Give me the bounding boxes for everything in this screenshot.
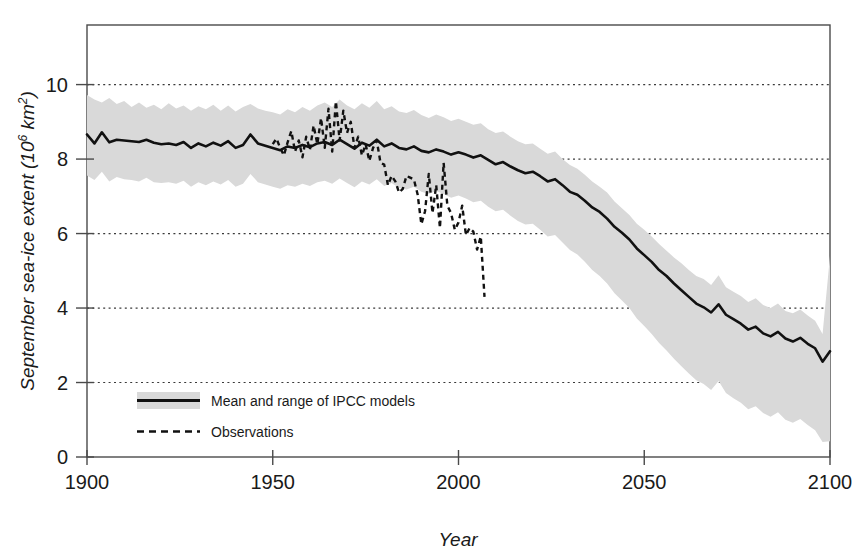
y-tick-label-8: 8 [57, 148, 68, 170]
x-tick-label-1950: 1950 [251, 471, 296, 493]
chart-background [0, 0, 856, 555]
x-axis-title: Year [438, 529, 478, 550]
y-tick-label-6: 6 [57, 223, 68, 245]
y-axis-title-main: September sea-ice extent (10 [17, 141, 38, 391]
x-tick-label-2050: 2050 [622, 471, 667, 493]
legend-label-observations: Observations [211, 424, 293, 440]
y-tick-label-10: 10 [46, 74, 68, 96]
x-tick-label-2000: 2000 [436, 471, 481, 493]
y-axis-title-tail: km [17, 104, 38, 135]
y-tick-label-0: 0 [57, 446, 68, 468]
figure-container: 19001950200020502100 0246810 Year Septem… [0, 0, 856, 555]
y-axis-title-end: ) [17, 91, 38, 99]
y-tick-label-4: 4 [57, 297, 68, 319]
y-tick-label-2: 2 [57, 372, 68, 394]
legend-label-models: Mean and range of IPCC models [211, 393, 415, 409]
x-tick-label-2100: 2100 [808, 471, 853, 493]
x-tick-label-1900: 1900 [65, 471, 110, 493]
sea-ice-extent-chart: 19001950200020502100 0246810 Year Septem… [0, 0, 856, 555]
